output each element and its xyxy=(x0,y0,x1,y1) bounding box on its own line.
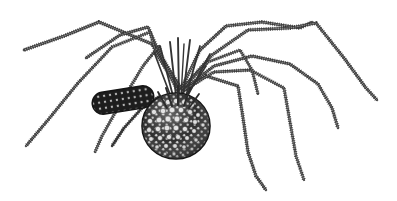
illustration-canvas: harvestman xyxy=(0,0,397,201)
harvestman-spider-illustration xyxy=(0,0,397,201)
abdomen-shading xyxy=(142,93,210,159)
